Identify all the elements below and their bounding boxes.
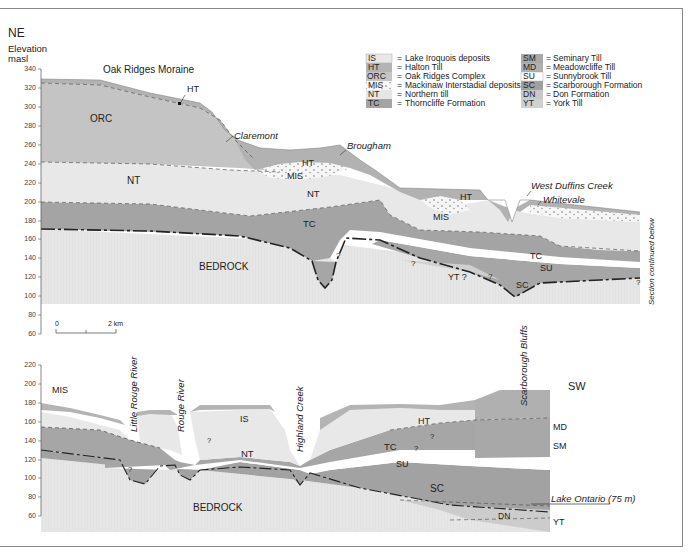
scale-end: 2 km [108, 320, 123, 327]
question-mark: ? [636, 278, 641, 287]
question-mark: ? [488, 272, 493, 281]
label-nt-left: NT [127, 175, 140, 186]
tick-label: 340 [24, 65, 36, 72]
label-su-upper: SU [540, 263, 553, 273]
label-nt-mid: NT [307, 188, 320, 199]
tick-label: 200 [24, 198, 36, 205]
label-ht-lower: HT [418, 416, 430, 426]
scale-bar: 0 2 km [55, 320, 123, 333]
place-highland-creek: Highland Creek [294, 385, 305, 452]
label-ht-mid: HT [302, 158, 314, 168]
tick-label: 180 [24, 217, 36, 224]
legend-name: Thorncliffe Formation [405, 98, 485, 108]
scale-start: 0 [55, 320, 59, 327]
tick-label: 80 [28, 493, 36, 500]
tick-label: 260 [24, 141, 36, 148]
label-ht-top: HT [187, 84, 199, 94]
label-sc-upper: SC [516, 280, 529, 290]
place-scarborough-bluffs: Scarborough Bluffs [518, 325, 529, 406]
label-nt-lower: NT [241, 448, 254, 459]
label-md: MD [553, 422, 567, 432]
marker-point [178, 102, 181, 105]
lake-ontario-label: Lake Ontario (75 m) [551, 493, 635, 504]
tick-label: 140 [24, 254, 36, 261]
axis-label-masl: masl [8, 53, 28, 64]
question-mark: ? [128, 465, 132, 474]
lower-y-axis: 220 200 180 160 140 120 100 80 60 [24, 361, 41, 519]
question-mark: ? [336, 251, 341, 260]
tick-label: 60 [28, 512, 36, 519]
question-mark: ? [414, 444, 418, 453]
label-bedrock-lower: BEDROCK [193, 502, 243, 513]
legend-equals: = [397, 98, 402, 108]
place-west-duffins-creek: West Duffins Creek [531, 180, 614, 191]
tick-label: 160 [24, 235, 36, 242]
label-is: IS [240, 414, 249, 424]
lower-sm-unit [475, 418, 550, 458]
upper-y-axis: 340 320 300 280 260 240 220 200 180 160 … [24, 65, 41, 337]
cross-section-figure: NE SW Elevation masl H [0, 0, 690, 557]
label-yt-lower: YT [553, 517, 565, 527]
legend-code: YT [523, 98, 534, 108]
tick-label: 120 [24, 456, 36, 463]
label-tc-lower: TC [384, 441, 397, 452]
label-su-lower: SU [396, 459, 409, 469]
tick-label: 100 [24, 474, 36, 481]
question-mark: ? [430, 432, 434, 441]
tick-label: 160 [24, 418, 36, 425]
legend-left-column: IS HT ORC MIS NT TC = = = = = = Lake Iro… [366, 53, 521, 108]
section-continued-note: Section continued below [647, 217, 656, 305]
tick-label: 280 [24, 122, 36, 129]
question-mark: ? [207, 436, 211, 445]
label-mis-mid: MIS [287, 171, 303, 181]
place-claremont: Claremont [234, 130, 278, 141]
oak-ridges-moraine-title: Oak Ridges Moraine [103, 64, 195, 75]
place-whitevale: Whitevale [543, 194, 585, 205]
tick-label: 220 [24, 179, 36, 186]
label-dn: DN [498, 511, 510, 521]
label-orc: ORC [90, 113, 112, 124]
tick-label: 80 [28, 311, 36, 318]
legend-equals: = [546, 98, 551, 108]
place-brougham: Brougham [347, 140, 391, 151]
tick-label: 180 [24, 399, 36, 406]
tick-label: 200 [24, 380, 36, 387]
label-tc-left: TC [303, 218, 316, 229]
legend-code: TC [368, 98, 379, 108]
label-ht-right: HT [460, 192, 472, 202]
tick-label: 100 [24, 292, 36, 299]
label-sc-lower: SC [430, 483, 444, 494]
tick-label: 240 [24, 160, 36, 167]
lower-md-unit [475, 390, 550, 420]
direction-ne: NE [8, 26, 25, 40]
tick-label: 220 [24, 361, 36, 368]
tick-label: 320 [24, 84, 36, 91]
label-tc-right: TC [530, 251, 542, 261]
label-mis-lower: MIS [52, 385, 68, 395]
leader-line [527, 191, 531, 196]
lower-section: MIS IS NT HT TC SU SC BEDROCK MD SM DN Y… [41, 325, 635, 532]
tick-label: 60 [28, 330, 36, 337]
label-sm: SM [553, 441, 567, 451]
legend-right-column: SM MD SU SC DN YT = = = = = = Seminary T… [521, 53, 643, 108]
label-mis-right: MIS [433, 212, 449, 222]
tick-label: 140 [24, 437, 36, 444]
legend: IS HT ORC MIS NT TC = = = = = = Lake Iro… [366, 53, 643, 108]
place-rouge-river: Rouge River [175, 378, 186, 432]
tick-label: 120 [24, 273, 36, 280]
question-mark: ? [411, 259, 416, 268]
label-bedrock-upper: BEDROCK [199, 261, 249, 272]
legend-name: York Till [553, 98, 583, 108]
direction-sw: SW [568, 380, 586, 392]
tick-label: 300 [24, 103, 36, 110]
place-little-rouge-river: Little Rouge River [128, 356, 139, 432]
label-yt-upper: YT ? [448, 272, 467, 282]
